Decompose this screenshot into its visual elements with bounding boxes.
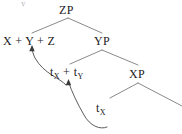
node-trace-x-plus-trace-y: tX + tY: [50, 66, 83, 83]
node-xp-label: XP: [129, 67, 145, 81]
branch-yp-to-xp: [102, 50, 138, 65]
node-xp: XP: [129, 68, 145, 80]
branch-yp-to-txty: [70, 50, 102, 64]
branch-xp-to-left: [110, 83, 138, 98]
node-yp: YP: [94, 35, 110, 47]
branch-xp-to-right: [138, 83, 182, 106]
node-yp-label: YP: [94, 34, 110, 48]
node-xyz: X + Y + Z: [3, 35, 55, 47]
branch-zp-to-xyz: [32, 18, 68, 33]
branch-zp-to-yp: [68, 18, 102, 33]
node-trace-x: tX: [96, 102, 105, 119]
node-zp: ZP: [59, 4, 74, 16]
trace-plus-operator: + t: [59, 65, 77, 79]
tree-lines: [0, 0, 182, 134]
trace-x-bottom-subscript: X: [100, 108, 106, 117]
syntactic-tree-figure: y ZP X + Y + Z YP tX + tY XP: [0, 0, 182, 134]
node-xyz-label: X + Y + Z: [3, 34, 55, 48]
trace-y-subscript: Y: [78, 72, 84, 81]
node-zp-label: ZP: [59, 3, 74, 17]
